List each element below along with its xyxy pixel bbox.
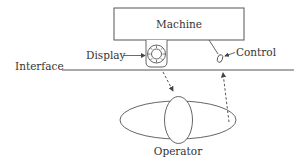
operator-figure bbox=[120, 97, 236, 144]
display-to-operator-flow-arrow bbox=[163, 72, 173, 91]
control-knob-icon bbox=[209, 40, 224, 63]
operator-label: Operator bbox=[154, 145, 203, 157]
machine-box: Machine bbox=[114, 8, 244, 40]
control-pointer-arrow bbox=[225, 53, 235, 57]
human-machine-interface-diagram: Machine Display Control Interface bbox=[0, 0, 306, 166]
interface-label: Interface bbox=[15, 60, 64, 72]
machine-label: Machine bbox=[156, 18, 202, 30]
operator-to-control-flow-arrow bbox=[223, 73, 229, 122]
display-label: Display bbox=[86, 49, 126, 61]
display-gauge-icon bbox=[146, 40, 167, 67]
operator-head-ellipse bbox=[165, 97, 193, 144]
control-label: Control bbox=[236, 46, 277, 58]
